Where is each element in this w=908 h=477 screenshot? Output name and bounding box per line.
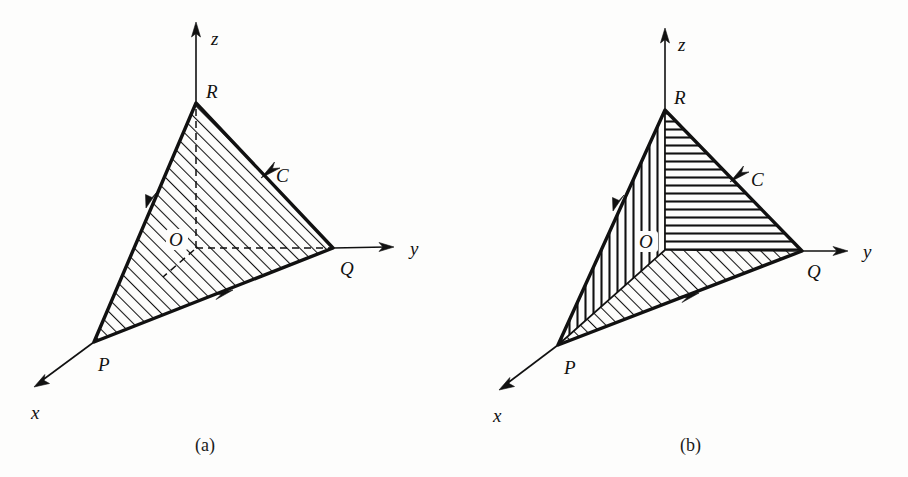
axis-label-z: z: [677, 34, 686, 55]
vertex-label-r: R: [205, 81, 218, 102]
panel-caption-b: (b): [680, 435, 701, 456]
x-axis: [509, 345, 558, 382]
diagram-b-canvas: z y x R Q P O C (b): [454, 0, 908, 477]
vertex-label-r: R: [673, 87, 686, 108]
y-axis: [333, 247, 386, 248]
diagram-panel-b: z y x R Q P O C (b): [454, 0, 908, 477]
edge-arrow-qr-icon: [730, 166, 749, 182]
figure-root: z y x R Q P O C (a): [0, 0, 908, 477]
axis-label-y: y: [861, 241, 872, 262]
vertex-label-q: Q: [340, 258, 354, 279]
axis-label-z: z: [210, 28, 219, 49]
curve-label-c: C: [751, 169, 764, 190]
inner-segment-oq: [665, 250, 802, 251]
vertex-label-o: O: [639, 231, 653, 252]
vertex-label-p: P: [97, 354, 110, 375]
diagram-panel-a: z y x R Q P O C (a): [0, 0, 454, 477]
vertex-label-q: Q: [807, 261, 821, 282]
curve-label-c: C: [276, 165, 289, 186]
triangle-pqr-fill: [94, 103, 333, 342]
axis-label-y: y: [408, 238, 419, 259]
axis-label-x: x: [492, 405, 502, 426]
x-axis: [44, 342, 94, 379]
diagram-a-canvas: z y x R Q P O C (a): [0, 0, 454, 477]
axis-label-x: x: [30, 402, 40, 423]
panel-caption-a: (a): [195, 435, 215, 456]
vertex-label-o: O: [169, 229, 183, 250]
vertex-label-p: P: [563, 357, 576, 378]
